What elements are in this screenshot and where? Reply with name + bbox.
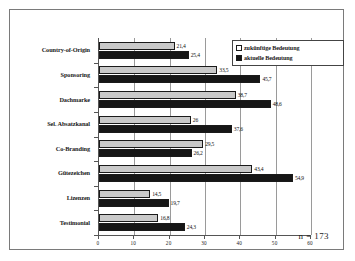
bar-value-label: 54,9 (295, 175, 304, 181)
category-label: Co-Branding (56, 145, 94, 152)
bar-value-label: 25,4 (191, 52, 200, 58)
y-axis-tick (94, 87, 98, 88)
x-axis-tick (275, 235, 276, 239)
bar-future (99, 66, 217, 74)
y-axis-tick (94, 161, 98, 162)
bar-value-label: 21,4 (177, 43, 186, 49)
x-axis-tick-label: 30 (201, 240, 207, 246)
bar-future (99, 165, 252, 173)
bar-future (99, 116, 191, 124)
category-label: Country-of-Origin (42, 46, 94, 53)
bar-future (99, 214, 158, 222)
x-axis-tick (98, 235, 99, 239)
category-label: Gütezeichen (58, 169, 94, 176)
legend-item-future: zukünftige Bedeutung (236, 43, 340, 53)
x-axis-tick-label: 20 (166, 240, 172, 246)
x-axis-tick (239, 235, 240, 239)
gridline (311, 38, 312, 235)
bar-value-label: 43,4 (254, 166, 263, 172)
bar-current (99, 51, 189, 59)
category-axis-labels: Country-of-OriginSponsoringDachmarkeSel.… (10, 38, 94, 235)
gridline (276, 38, 277, 235)
legend-swatch-future-icon (236, 45, 242, 51)
y-axis-tick (94, 112, 98, 113)
bar-future (99, 91, 236, 99)
x-axis-tick-label: 10 (131, 240, 137, 246)
plot-area: 21,425,433,545,738,748,62637,629,526,243… (98, 38, 310, 235)
bar-value-label: 33,5 (219, 67, 228, 73)
bar-current (99, 174, 293, 182)
x-axis-tick (133, 235, 134, 239)
sample-size-note: n = 173 (299, 231, 329, 241)
bar-value-label: 16,8 (160, 215, 169, 221)
legend-label-current: aktuelle Bedeutung (244, 55, 292, 61)
y-axis-tick (94, 210, 98, 211)
legend-item-current: aktuelle Bedeutung (236, 53, 340, 63)
x-axis-tick-label: 60 (307, 240, 313, 246)
bar-current (99, 199, 169, 207)
x-axis-tick (204, 235, 205, 239)
legend-swatch-current-icon (236, 55, 242, 61)
x-axis-tick-label: 40 (237, 240, 243, 246)
bar-value-label: 24,3 (187, 224, 196, 230)
category-label: Dachmarke (59, 96, 94, 103)
bar-value-label: 14,5 (152, 191, 161, 197)
y-axis-tick (94, 186, 98, 187)
y-axis-tick (94, 137, 98, 138)
bar-value-label: 26,2 (194, 150, 203, 156)
category-label: Sel. Absatzkanal (47, 120, 94, 127)
x-axis-tick-label: 0 (97, 240, 100, 246)
chart-legend: zukünftige Bedeutung aktuelle Bedeutung (232, 40, 344, 66)
chart-frame: Country-of-OriginSponsoringDachmarkeSel.… (9, 9, 344, 250)
bar-value-label: 29,5 (205, 141, 214, 147)
bar-value-label: 37,6 (234, 126, 243, 132)
bar-current (99, 100, 271, 108)
category-label: Testimonial (60, 219, 94, 226)
bar-value-label: 26 (193, 117, 198, 123)
bar-future (99, 42, 175, 50)
gridline (240, 38, 241, 235)
bar-value-label: 38,7 (238, 92, 247, 98)
category-label: Sponsoring (61, 71, 94, 78)
bar-value-label: 45,7 (262, 76, 271, 82)
bar-current (99, 149, 192, 157)
bar-current (99, 125, 232, 133)
y-axis-tick (94, 235, 98, 236)
bar-future (99, 140, 203, 148)
legend-label-future: zukünftige Bedeutung (244, 45, 299, 51)
bar-value-label: 48,6 (273, 101, 282, 107)
bar-value-label: 19,7 (171, 200, 180, 206)
x-axis-tick (310, 235, 311, 239)
category-label: Lizenzen (67, 194, 94, 201)
bar-current (99, 75, 260, 83)
x-axis-tick-label: 50 (272, 240, 278, 246)
bar-future (99, 190, 150, 198)
y-axis-tick (94, 63, 98, 64)
bar-current (99, 223, 185, 231)
x-axis-tick (169, 235, 170, 239)
